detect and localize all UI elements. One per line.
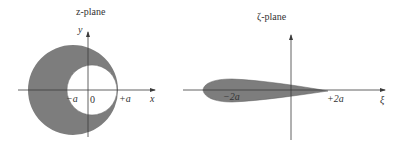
tick-pos-2a: +2a (327, 93, 344, 104)
zeta-xi-axis-label: ξ (380, 94, 385, 106)
z-x-axis-label: x (149, 93, 155, 104)
z-plane-panel: z-plane y x −a 0 +a (18, 6, 155, 137)
teardrop-region (203, 79, 328, 102)
tick-origin: 0 (90, 94, 95, 105)
zeta-plane-title: ζ-plane (257, 11, 287, 23)
z-y-axis-label: y (77, 24, 83, 35)
zeta-plane-panel: ζ-plane ξ −2a +2a (183, 11, 385, 140)
tick-neg-2a: −2a (223, 91, 240, 102)
tick-pos-a: +a (119, 93, 131, 104)
conformal-map-diagram: z-plane y x −a 0 +a ζ-plane ξ −2a +2a (0, 0, 406, 145)
tick-neg-a: −a (66, 93, 78, 104)
z-plane-title: z-plane (76, 6, 106, 17)
